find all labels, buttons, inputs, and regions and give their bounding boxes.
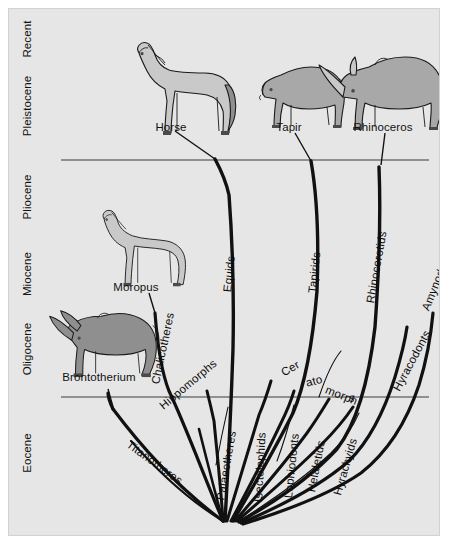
caption-moropus: Moropus bbox=[113, 281, 158, 293]
branch-tapirids bbox=[233, 161, 318, 521]
leader-tapir bbox=[295, 133, 311, 161]
caption-rhinoceros: Rhinoceros bbox=[353, 121, 412, 133]
leader-horse bbox=[175, 131, 215, 159]
rhinoceros-horn-rear bbox=[350, 57, 356, 75]
leader-moropus bbox=[149, 293, 155, 313]
moropus-body bbox=[103, 210, 185, 284]
brontotherium-illustration bbox=[50, 311, 159, 377]
perissodactyl-evolution-figure: RecentPleistocenePlioceneMioceneOligocen… bbox=[0, 0, 456, 551]
caption-tapir: Tapir bbox=[276, 121, 301, 133]
moropus-illustration bbox=[103, 210, 185, 286]
brontotherium-body bbox=[67, 314, 156, 375]
caption-horse: Horse bbox=[155, 121, 186, 133]
horse-illustration bbox=[138, 43, 236, 135]
caption-brontotherium: Brontotherium bbox=[62, 371, 136, 383]
figure-panel: RecentPleistocenePlioceneMioceneOligocen… bbox=[8, 8, 440, 536]
